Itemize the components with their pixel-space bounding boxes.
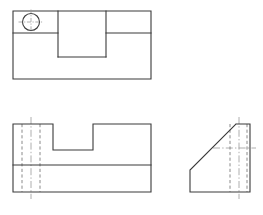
drawing-sheet: [0, 0, 263, 215]
orthographic-drawing-canvas: [0, 0, 263, 215]
top-view: [13, 10, 151, 80]
top-view-face: [13, 11, 151, 79]
